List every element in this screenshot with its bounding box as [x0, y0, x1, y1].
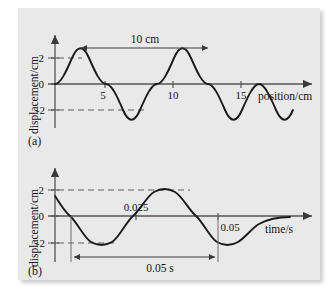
panel-b-wave-curve	[55, 189, 290, 245]
panel-a-label: (a)	[28, 134, 41, 148]
figure-root: displacement/cm 2 0 -2 5 10 15 position/…	[0, 0, 336, 305]
panel-a-group	[48, 35, 312, 128]
panel-b-ytick-label-2: 2	[39, 184, 45, 196]
panel-b-ytick-label-neg2: -2	[36, 237, 45, 249]
panel-b-xtick-label-005: 0.05	[220, 221, 240, 233]
panel-b-xtick-label-0025: 0.025	[124, 201, 149, 213]
panel-a-ytick-label-neg2: -2	[36, 104, 45, 116]
panel-a-xtick-label-5: 5	[100, 89, 106, 101]
panel-a-ytick-label-0: 0	[39, 78, 45, 90]
panel-b-x-axis-label: time/s	[265, 223, 294, 235]
panel-a-dimension-label: 10 cm	[131, 33, 159, 45]
panel-b-group	[48, 168, 312, 262]
panel-a-xtick-label-10: 10	[168, 89, 180, 101]
panel-b-ytick-label-0: 0	[39, 210, 45, 222]
panel-a-xtick-label-15: 15	[236, 89, 248, 101]
panel-b-label: (b)	[28, 264, 42, 278]
panel-a-x-axis-label: position/cm	[258, 90, 312, 103]
panel-a-ytick-label-2: 2	[39, 52, 45, 64]
panel-a-y-axis-label: displacement/cm	[28, 56, 41, 134]
panel-b-y-axis-label: displacement/cm	[28, 189, 41, 267]
wave-graphs-svg: displacement/cm 2 0 -2 5 10 15 position/…	[0, 0, 336, 305]
panel-b-dimension-label: 0.05 s	[146, 262, 174, 274]
